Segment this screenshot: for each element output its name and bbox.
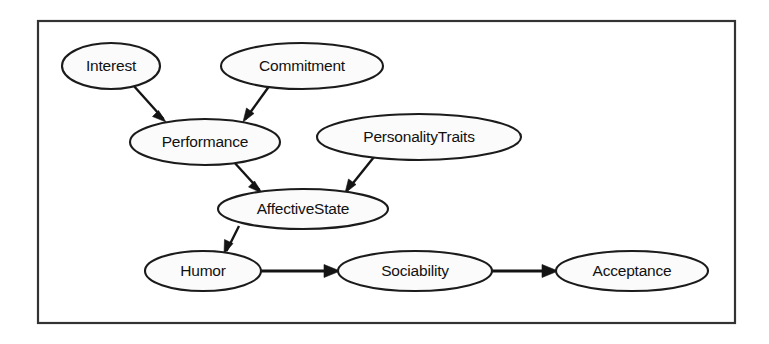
- node-label-interest: Interest: [86, 57, 137, 74]
- node-affectivestate[interactable]: AffectiveState: [218, 189, 388, 229]
- node-sociability[interactable]: Sociability: [338, 251, 492, 291]
- node-label-sociability: Sociability: [381, 262, 449, 279]
- node-label-personalitytraits: PersonalityTraits: [363, 128, 475, 145]
- node-performance[interactable]: Performance: [130, 119, 280, 165]
- node-acceptance[interactable]: Acceptance: [556, 251, 708, 291]
- node-personalitytraits[interactable]: PersonalityTraits: [317, 114, 521, 160]
- node-label-affectivestate: AffectiveState: [257, 200, 350, 217]
- node-interest[interactable]: Interest: [62, 43, 160, 89]
- node-label-commitment: Commitment: [259, 57, 346, 74]
- causal-graph-diagram: Interest Commitment Performance Personal…: [0, 0, 769, 344]
- node-label-humor: Humor: [180, 262, 226, 279]
- node-label-acceptance: Acceptance: [593, 262, 672, 279]
- node-humor[interactable]: Humor: [145, 251, 261, 291]
- node-commitment[interactable]: Commitment: [221, 43, 383, 89]
- node-label-performance: Performance: [162, 133, 249, 150]
